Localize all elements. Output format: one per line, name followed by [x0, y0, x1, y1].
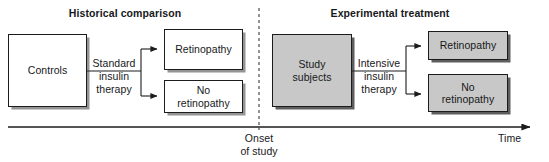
label-line-2: retinopathy — [442, 93, 495, 105]
axis-label-time: Time — [498, 132, 542, 145]
edge-label-line-1: Standard — [92, 57, 135, 69]
box-left-no-retinopathy-label: No retinopathy — [177, 84, 230, 109]
box-controls: Controls — [8, 34, 87, 107]
label-line-2: retinopathy — [177, 97, 230, 109]
heading-experimental-treatment: Experimental treatment — [310, 7, 470, 19]
right-edge-label-intensive-insulin-therapy: Intensive insulin therapy — [353, 57, 405, 96]
label-line-1: Study — [298, 58, 325, 70]
label-line-1: No — [461, 81, 475, 93]
label-line-1: No — [197, 84, 211, 96]
edge-label-line-2: insulin — [364, 70, 394, 82]
box-left-retinopathy: Retinopathy — [164, 29, 243, 70]
box-study-subjects: Study subjects — [272, 34, 352, 107]
box-right-no-retinopathy: No retinopathy — [428, 74, 508, 112]
onset-line-2: of study — [240, 145, 277, 157]
edge-label-line-3: therapy — [361, 83, 396, 95]
label-line-2: subjects — [293, 71, 332, 83]
axis-label-onset-of-study: Onset of study — [233, 132, 285, 158]
heading-historical-comparison: Historical comparison — [55, 7, 195, 19]
edge-label-line-1: Intensive — [358, 57, 400, 69]
box-right-retinopathy: Retinopathy — [428, 31, 508, 60]
edge-label-line-2: insulin — [99, 70, 129, 82]
figure-canvas: Historical comparison Experimental treat… — [0, 0, 549, 162]
onset-line-1: Onset — [245, 132, 273, 144]
box-study-subjects-label: Study subjects — [293, 58, 332, 83]
left-edge-label-standard-insulin-therapy: Standard insulin therapy — [88, 57, 140, 96]
edge-label-line-3: therapy — [96, 83, 131, 95]
box-left-no-retinopathy: No retinopathy — [164, 80, 243, 113]
box-right-no-retinopathy-label: No retinopathy — [442, 81, 495, 106]
